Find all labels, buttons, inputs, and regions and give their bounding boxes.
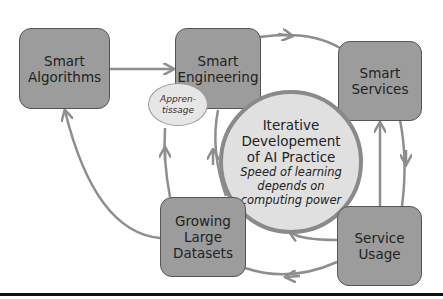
annotation-apprentissage: Appren- tissage xyxy=(148,83,208,126)
node-label: Growing xyxy=(175,213,231,229)
node-label: Smart xyxy=(44,53,85,69)
node-label: Service xyxy=(355,230,405,246)
node-smart-services: Smart Services xyxy=(338,41,422,121)
node-label: Usage xyxy=(358,246,400,262)
node-label: Datasets xyxy=(173,245,233,261)
center-subtitle-line: computing power xyxy=(241,193,342,207)
arrow-datasets-to-engineering xyxy=(165,128,170,197)
node-growing-large-datasets: Growing Large Datasets xyxy=(160,197,246,277)
bottom-divider xyxy=(0,293,443,296)
node-label: Algorithms xyxy=(28,69,101,85)
arrow-usage-to-datasets-head xyxy=(286,276,300,277)
node-label: Smart xyxy=(360,65,401,81)
center-subtitle-line: depends on xyxy=(257,179,324,193)
center-title-line: Developement xyxy=(241,133,340,149)
node-service-usage: Service Usage xyxy=(337,206,422,286)
center-title-line: Iterative xyxy=(263,117,320,133)
node-label: Services xyxy=(352,81,409,97)
node-label: Large xyxy=(184,229,222,245)
center-title-line: of AI Practice xyxy=(247,149,336,165)
center-subtitle-line: Speed of learning xyxy=(240,165,342,179)
arrow-engineering-to-services xyxy=(260,35,340,48)
node-label: Engineering xyxy=(178,69,259,85)
arrow-usage-to-datasets xyxy=(245,262,337,274)
arrow-services-to-usage xyxy=(400,120,405,206)
annotation-label: tissage xyxy=(162,105,194,116)
node-label: Smart xyxy=(198,53,239,69)
node-smart-algorithms: Smart Algorithms xyxy=(19,28,110,109)
arrow-datasets-to-algorithms xyxy=(65,111,160,238)
annotation-label: Appren- xyxy=(160,94,196,105)
